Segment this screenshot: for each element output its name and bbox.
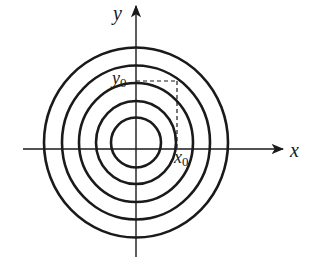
y0-label: y0 — [110, 68, 127, 90]
x-axis-label: x — [289, 139, 299, 161]
x0-label: x0 — [173, 147, 189, 169]
dashed-guides — [136, 81, 177, 148]
contour-diagram: y x y0 x0 — [0, 0, 316, 279]
y0-subscript: 0 — [120, 75, 127, 90]
y-axis-label: y — [111, 2, 122, 25]
x0-subscript: 0 — [182, 154, 189, 169]
y0-main: y — [110, 68, 120, 88]
x0-main: x — [173, 147, 182, 167]
